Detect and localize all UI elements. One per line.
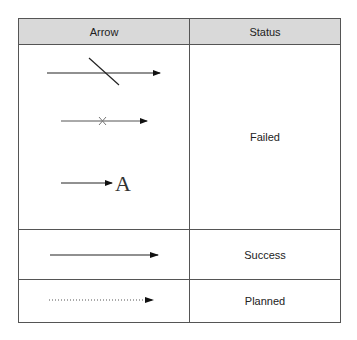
header-arrow: Arrow bbox=[19, 19, 190, 45]
status-failed: Failed bbox=[190, 45, 341, 230]
arrow-cell-planned bbox=[19, 280, 190, 323]
arrow-status-table: Arrow Status bbox=[18, 18, 341, 323]
arrow-with-cross-icon bbox=[61, 117, 147, 125]
table-row-planned: Planned bbox=[19, 280, 341, 323]
arrow-with-slash-icon bbox=[47, 58, 160, 85]
svg-text:A: A bbox=[115, 171, 131, 196]
table-row-success: Success bbox=[19, 230, 341, 280]
header-status: Status bbox=[190, 19, 341, 45]
arrow-cell-failed: A bbox=[19, 45, 190, 230]
table-row-failed: A Failed bbox=[19, 45, 341, 230]
status-planned: Planned bbox=[190, 280, 341, 323]
status-success: Success bbox=[190, 230, 341, 280]
arrow-to-label-icon: A bbox=[61, 171, 131, 196]
header-row: Arrow Status bbox=[19, 19, 341, 45]
arrow-cell-success bbox=[19, 230, 190, 280]
